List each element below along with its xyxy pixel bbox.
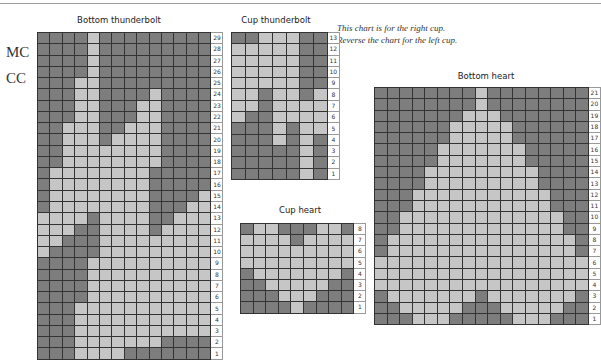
stitch-mc: [375, 88, 388, 99]
stitch-cc: [278, 235, 291, 246]
stitch-mc: [400, 88, 413, 99]
stitch-cc: [99, 303, 111, 314]
stitch-cc: [124, 235, 136, 246]
stitch-mc: [186, 111, 198, 122]
stitch-mc: [232, 134, 246, 145]
stitch-cc: [137, 213, 149, 224]
stitch-mc: [412, 133, 425, 144]
stitch-cc: [437, 167, 450, 178]
stitch-mc: [87, 213, 99, 224]
stitch-cc: [137, 303, 149, 314]
stitch-cc: [149, 156, 161, 167]
chart-row: 20: [38, 134, 223, 145]
stitch-cc: [400, 234, 413, 245]
stitch-mc: [259, 134, 273, 145]
stitch-cc: [437, 234, 450, 245]
stitch-cc: [186, 303, 198, 314]
row-number: 4: [211, 314, 223, 325]
stitch-cc: [273, 44, 287, 55]
row-number: 7: [588, 246, 600, 257]
stitch-cc: [463, 133, 476, 144]
chart-row: 18: [38, 156, 223, 167]
stitch-mc: [99, 78, 111, 89]
stitch-mc: [259, 89, 273, 100]
stitch-mc: [314, 134, 328, 145]
stitch-mc: [412, 155, 425, 166]
chart-row: 11: [38, 235, 223, 246]
row-number: 7: [211, 280, 223, 291]
stitch-mc: [329, 291, 342, 302]
stitch-mc: [375, 302, 388, 313]
bottom-heart-chart: 212019181716151413121110987654321: [374, 87, 601, 325]
stitch-cc: [500, 178, 513, 189]
stitch-mc: [50, 156, 62, 167]
row-number: 25: [211, 78, 223, 89]
stitch-cc: [241, 235, 254, 246]
stitch-cc: [273, 134, 287, 145]
stitch-mc: [199, 89, 211, 100]
stitch-mc: [375, 178, 388, 189]
stitch-cc: [149, 292, 161, 303]
stitch-mc: [199, 123, 211, 134]
stitch-mc: [551, 99, 564, 110]
stitch-mc: [62, 78, 74, 89]
row-number: 27: [211, 55, 223, 66]
stitch-cc: [112, 179, 124, 190]
stitch-cc: [99, 258, 111, 269]
row-number: 6: [327, 112, 339, 123]
chart-row: 12: [232, 44, 340, 55]
stitch-mc: [273, 157, 287, 168]
stitch-mc: [161, 348, 173, 359]
stitch-cc: [273, 78, 287, 89]
stitch-mc: [314, 66, 328, 77]
stitch-mc: [538, 99, 551, 110]
stitch-cc: [286, 66, 300, 77]
stitch-cc: [124, 303, 136, 314]
stitch-mc: [576, 302, 589, 313]
stitch-cc: [124, 247, 136, 258]
stitch-mc: [278, 302, 291, 313]
row-number: 23: [211, 100, 223, 111]
stitch-mc: [161, 123, 173, 134]
stitch-mc: [50, 89, 62, 100]
stitch-cc: [316, 235, 329, 246]
chart-row: 10: [232, 66, 340, 77]
stitch-cc: [124, 213, 136, 224]
stitch-mc: [375, 313, 388, 324]
stitch-mc: [314, 145, 328, 156]
stitch-cc: [50, 213, 62, 224]
stitch-mc: [563, 313, 576, 324]
stitch-cc: [437, 257, 450, 268]
stitch-mc: [563, 88, 576, 99]
stitch-cc: [551, 291, 564, 302]
stitch-cc: [286, 33, 300, 44]
stitch-mc: [75, 280, 87, 291]
stitch-cc: [463, 178, 476, 189]
stitch-cc: [450, 121, 463, 132]
stitch-mc: [475, 313, 488, 324]
stitch-mc: [551, 313, 564, 324]
stitch-cc: [303, 291, 316, 302]
stitch-cc: [174, 213, 186, 224]
stitch-mc: [563, 121, 576, 132]
row-number: 19: [588, 110, 600, 121]
chart-row: 11: [232, 55, 340, 66]
stitch-cc: [149, 111, 161, 122]
stitch-cc: [488, 246, 501, 257]
stitch-mc: [38, 325, 50, 336]
stitch-mc: [400, 200, 413, 211]
stitch-cc: [488, 268, 501, 279]
stitch-cc: [278, 246, 291, 257]
stitch-cc: [488, 110, 501, 121]
stitch-cc: [124, 292, 136, 303]
stitch-cc: [551, 280, 564, 291]
stitch-cc: [259, 44, 273, 55]
stitch-cc: [303, 235, 316, 246]
chart-row: 28: [38, 44, 223, 55]
stitch-cc: [437, 313, 450, 324]
stitch-cc: [174, 314, 186, 325]
stitch-cc: [329, 246, 342, 257]
stitch-mc: [149, 33, 161, 44]
stitch-cc: [450, 178, 463, 189]
stitch-cc: [112, 303, 124, 314]
